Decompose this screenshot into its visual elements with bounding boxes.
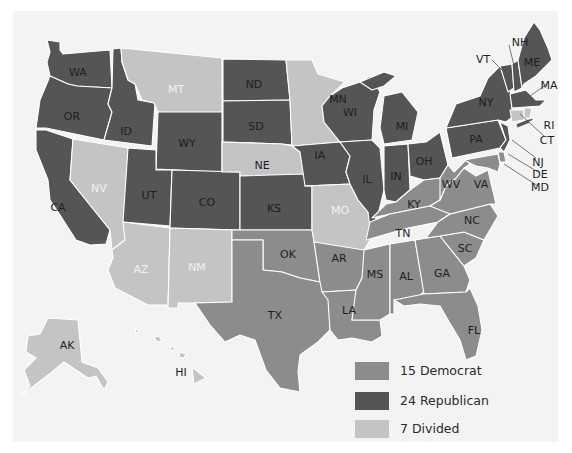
state-ak <box>22 318 108 395</box>
label-sc: SC <box>458 242 473 255</box>
label-ri: RI <box>544 119 555 132</box>
state-ri <box>524 108 532 118</box>
label-me: ME <box>524 56 540 69</box>
label-il: IL <box>362 173 372 186</box>
label-mn: MN <box>329 93 347 106</box>
label-nh: NH <box>512 36 529 49</box>
legend-item-divided: 7 Divided <box>355 420 555 440</box>
label-oh: OH <box>416 155 433 168</box>
label-tn: TN <box>395 227 411 240</box>
legend-item-democrat: 15 Democrat <box>355 362 555 382</box>
label-vt: VT <box>476 53 491 66</box>
state-hi <box>192 367 206 384</box>
label-mi: MI <box>396 120 409 133</box>
label-or: OR <box>64 110 81 123</box>
label-mo: MO <box>331 204 349 217</box>
label-fl: FL <box>468 324 481 337</box>
label-nv: NV <box>91 182 107 195</box>
label-co: CO <box>199 196 216 209</box>
label-ct: CT <box>540 134 555 147</box>
label-ok: OK <box>280 248 297 261</box>
label-ar: AR <box>331 252 347 265</box>
divided-swatch <box>355 420 389 438</box>
us-state-legislature-map: NHVTMARICTNJDEMDWAORCAIDNVMTWYUTCOAZNMND… <box>0 0 572 453</box>
label-wa: WA <box>69 66 87 79</box>
label-ak: AK <box>60 339 76 352</box>
label-ky: KY <box>407 198 421 211</box>
legend-label-democrat: 15 Democrat <box>400 363 482 378</box>
label-sd: SD <box>248 120 263 133</box>
states-layer <box>22 22 552 395</box>
label-la: LA <box>342 304 356 317</box>
label-id: ID <box>120 125 132 138</box>
label-ny: NY <box>479 96 494 109</box>
label-mt: MT <box>168 83 184 96</box>
label-nd: ND <box>246 78 263 91</box>
label-de: DE <box>532 168 547 181</box>
legend-label-republican: 24 Republican <box>400 393 489 408</box>
label-ga: GA <box>434 267 451 280</box>
state-mi <box>380 92 418 144</box>
label-ut: UT <box>142 189 157 202</box>
label-wv: WV <box>442 178 461 191</box>
label-in: IN <box>390 170 401 183</box>
label-nm: NM <box>188 261 206 274</box>
label-tx: TX <box>267 309 283 322</box>
label-ms: MS <box>367 268 383 281</box>
label-wi: WI <box>343 106 357 119</box>
label-ks: KS <box>267 202 281 215</box>
label-hi: HI <box>175 366 187 379</box>
legend-label-divided: 7 Divided <box>400 421 459 436</box>
label-nc: NC <box>464 214 480 227</box>
republican-swatch <box>355 392 389 410</box>
label-wy: WY <box>178 137 196 150</box>
label-ia: IA <box>315 149 326 162</box>
democrat-swatch <box>355 362 389 380</box>
hawaii-island-1 <box>135 328 139 334</box>
hawaii-island-2 <box>154 336 162 342</box>
hawaii-island-4 <box>179 352 186 358</box>
label-pa: PA <box>469 133 483 146</box>
label-md: MD <box>531 181 549 194</box>
label-va: VA <box>474 178 489 191</box>
label-az: AZ <box>133 263 149 276</box>
state-md <box>464 154 500 172</box>
legend-item-republican: 24 Republican <box>355 392 555 412</box>
label-ne: NE <box>254 159 269 172</box>
label-al: AL <box>399 270 414 283</box>
state-ma <box>510 90 546 108</box>
label-ma: MA <box>540 79 557 92</box>
hawaii-island-3 <box>170 346 175 352</box>
label-ca: CA <box>50 201 66 214</box>
